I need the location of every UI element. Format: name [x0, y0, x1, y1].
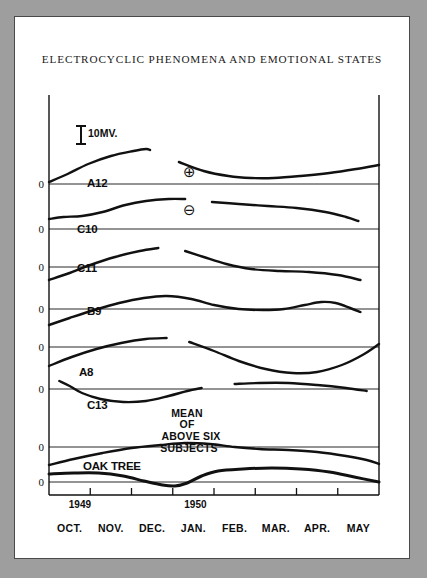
zero-axis-label: 0: [39, 441, 48, 453]
month-label-jan: JAN.: [181, 522, 206, 534]
month-label-apr: APR.: [304, 522, 330, 534]
trace-line-c11: [185, 251, 360, 280]
zero-axis-label: 0: [39, 476, 48, 488]
positive-polarity-icon: ⊕: [183, 165, 196, 180]
mean-note-line: SUBJECTS: [160, 443, 218, 455]
figure-page: ELECTROCYCLIC PHENOMENA AND EMOTIONAL ST…: [14, 16, 410, 559]
zero-axis-label: 0: [39, 303, 48, 315]
negative-polarity-icon: ⊖: [183, 203, 196, 218]
zero-axis-label: 0: [39, 383, 48, 395]
mean-note-line: OF: [180, 419, 195, 431]
scale-bar-icon: [75, 124, 89, 150]
month-label-dec: DEC.: [139, 522, 165, 534]
zero-axis-label: 0: [39, 261, 48, 273]
trace-line-c13: [59, 381, 201, 402]
year-label: 1949: [69, 499, 91, 510]
trace-line-c10: [49, 199, 185, 219]
trace-line-a12: [179, 162, 379, 178]
scale-bar-label: 10MV.: [88, 127, 117, 139]
month-label-may: MAY: [347, 522, 370, 534]
trace-label-b9: B9: [87, 305, 101, 317]
zero-axis-label: 0: [39, 178, 48, 190]
year-label: 1950: [184, 499, 206, 510]
month-label-feb: FEB.: [222, 522, 247, 534]
trace-label-c10: C10: [77, 223, 98, 235]
trace-label-a12: A12: [87, 177, 108, 189]
trace-label-c13: C13: [87, 399, 108, 411]
trace-line-c11: [49, 248, 158, 280]
figure-title: ELECTROCYCLIC PHENOMENA AND EMOTIONAL ST…: [15, 53, 409, 65]
trace-line-c13: [235, 383, 367, 391]
trace-label-oak-tree: OAK TREE: [83, 460, 141, 472]
trace-label-c11: C11: [77, 262, 97, 274]
month-label-nov: NOV.: [98, 522, 124, 534]
mean-note-line: ABOVE SIX: [162, 431, 221, 443]
zero-axis-label: 0: [39, 223, 48, 235]
trace-line-a8: [49, 338, 167, 366]
trace-line-c10: [212, 202, 358, 221]
zero-axis-label: 0: [39, 341, 48, 353]
month-label-mar: MAR.: [262, 522, 290, 534]
month-label-oct: OCT.: [57, 522, 82, 534]
trace-label-a8: A8: [79, 366, 93, 378]
